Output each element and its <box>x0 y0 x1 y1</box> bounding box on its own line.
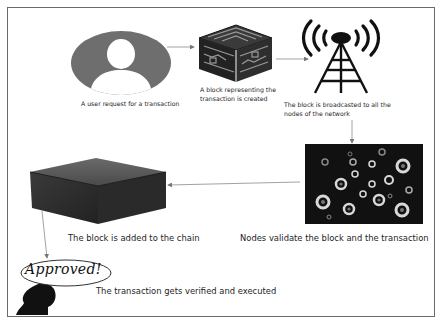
network-nodes-icon <box>305 144 423 224</box>
step-block-created <box>196 22 274 84</box>
step-broadcast <box>295 15 387 95</box>
broadcast-tower-icon <box>295 15 387 95</box>
block-cube-icon <box>196 22 274 84</box>
step-user-request <box>70 30 172 96</box>
chain-block-icon <box>28 156 168 226</box>
caption-block-created: A block representing the transaction is … <box>200 86 282 103</box>
caption-validate: Nodes validate the block and the transac… <box>240 233 429 244</box>
user-avatar-icon <box>70 30 172 96</box>
caption-user-request: A user request for a transaction <box>81 100 179 109</box>
caption-added-to-chain: The block is added to the chain <box>68 233 200 244</box>
step-validate <box>305 144 423 224</box>
step-added-to-chain <box>28 156 168 226</box>
caption-broadcast: The block is broadcasted to all the node… <box>284 101 404 118</box>
approved-badge: Approved! <box>25 261 102 277</box>
caption-verified: The transaction gets verified and execut… <box>96 286 276 297</box>
